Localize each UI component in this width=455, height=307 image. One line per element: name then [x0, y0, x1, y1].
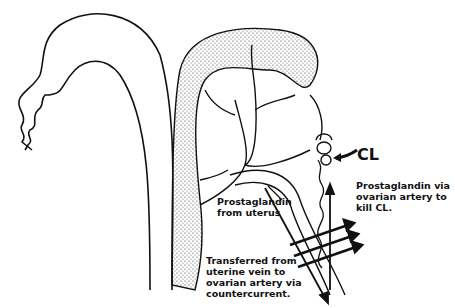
uterine-wall — [172, 28, 318, 290]
prostaglandin-uterus-label: Prostaglandin from uterus — [217, 196, 292, 218]
ovarian-artery-coil — [318, 160, 324, 268]
corpus-luteum-label: CL — [357, 145, 379, 164]
prostaglandin-ovarian-label: Prostaglandin via ovarian artery to kill… — [356, 180, 450, 213]
countercurrent-transfer-label: Transferred from uterine vein to ovarian… — [206, 255, 302, 299]
uterine-horn — [19, 14, 173, 290]
cl-pointer-arrow — [333, 150, 357, 162]
